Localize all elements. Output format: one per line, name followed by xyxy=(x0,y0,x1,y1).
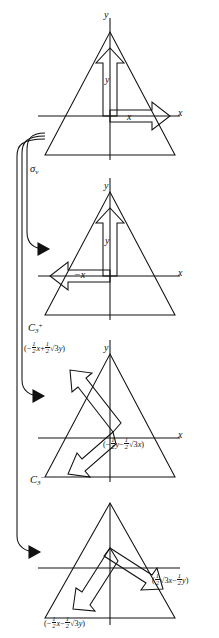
expr-open: (− xyxy=(103,440,110,449)
expr-radical: √3 xyxy=(160,576,169,585)
c3-superscript-plus: + xyxy=(39,322,43,330)
flow-arrowhead-c3-minus xyxy=(29,546,40,558)
expr-radical: √3 xyxy=(70,619,79,628)
panel-c3-plus xyxy=(38,340,180,482)
expr-close: ) xyxy=(82,619,85,628)
symmetry-operation-figure xyxy=(0,0,219,638)
flow-arrowhead-c3-plus xyxy=(33,390,44,402)
neg-x-vector-label-panel2: −x xyxy=(74,270,85,280)
panel-c3-minus xyxy=(38,503,180,625)
expr-close: ) xyxy=(141,440,144,449)
expr-close: ) xyxy=(186,576,189,585)
y-axis-label-panel1: y xyxy=(104,10,108,20)
sigma-subscript: v xyxy=(35,168,38,176)
expr-open: (− xyxy=(24,344,31,353)
x-axis-label-panel3: x xyxy=(178,430,182,440)
x-axis-label-panel2: x xyxy=(178,268,182,278)
expr-radical: √3 xyxy=(50,344,59,353)
operation-label-c3-plus: C3+ xyxy=(28,323,43,335)
expr-radical: √3 xyxy=(129,440,138,449)
expression-c3-plus-y: (−12x+12√3y) xyxy=(24,341,65,355)
c3-symbol: C xyxy=(30,474,37,485)
panel-identity xyxy=(38,18,180,160)
y-vector-label-panel1: y xyxy=(105,75,109,85)
expr-close: ) xyxy=(62,344,65,353)
x-axis-label-panel1: x xyxy=(178,108,182,118)
y-axis-label-panel2: y xyxy=(104,181,108,191)
rotated-y-vector-arrow-panel3 xyxy=(70,370,121,432)
expression-c3-plus-x: (−12y−12√3x) xyxy=(103,437,144,451)
y-vector-label-panel2: y xyxy=(105,236,109,246)
y-axis-label-panel3: y xyxy=(104,343,108,353)
x-vector-label-panel1: x xyxy=(127,112,131,122)
flow-line-sigma-v xyxy=(27,133,46,249)
expression-c3-minus-x: (12√3x−12y) xyxy=(152,573,188,587)
c3-superscript-minus: − xyxy=(41,474,45,482)
operation-label-sigma-v: σv xyxy=(30,164,38,176)
c3-symbol: C xyxy=(28,322,35,333)
expression-c3-minus-y: (−12x−12√3y) xyxy=(44,616,85,630)
flow-arrowhead-sigma-v xyxy=(38,243,49,255)
operation-label-c3-minus: C3− xyxy=(30,475,45,487)
expr-open: (− xyxy=(44,619,51,628)
panel-sigma-v xyxy=(38,178,180,320)
